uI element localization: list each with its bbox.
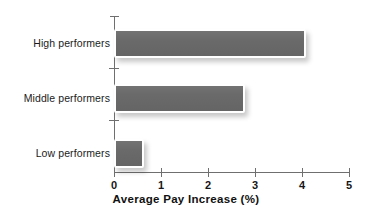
x-axis-tick-label-5: 5	[337, 179, 361, 191]
bar-fill-high-performers	[116, 31, 304, 56]
category-label-high-performers: High performers	[33, 37, 110, 49]
x-axis-tick-3	[255, 168, 256, 177]
x-axis-tick-label-1: 1	[149, 179, 173, 191]
bar-fill-middle-performers	[116, 86, 243, 111]
x-axis-tick-label-3: 3	[243, 179, 267, 191]
x-axis-tick-label-2: 2	[196, 179, 220, 191]
x-axis-line	[114, 172, 349, 173]
bar-low-performers	[114, 139, 144, 168]
plot-area: 0 1 2 3 4 5	[114, 16, 349, 172]
category-label-middle-performers: Middle performers	[24, 92, 110, 104]
bar-fill-low-performers	[116, 141, 142, 166]
y-axis-tick-1	[109, 68, 119, 69]
x-axis-tick-4	[302, 168, 303, 177]
bar-middle-performers	[114, 84, 245, 113]
category-label-low-performers: Low performers	[36, 147, 110, 159]
x-axis-tick-5	[349, 168, 350, 177]
x-axis-title: Average Pay Increase (%)	[0, 193, 372, 205]
bar-high-performers	[114, 29, 306, 58]
x-axis-tick-0	[114, 168, 115, 177]
y-axis-top-cap	[110, 16, 119, 17]
y-axis-tick-2	[109, 120, 119, 121]
x-axis-tick-label-0: 0	[102, 179, 126, 191]
bar-chart: High performers Middle performers Low pe…	[0, 0, 372, 217]
x-axis-tick-2	[208, 168, 209, 177]
x-axis-tick-1	[161, 168, 162, 177]
x-axis-tick-label-4: 4	[290, 179, 314, 191]
